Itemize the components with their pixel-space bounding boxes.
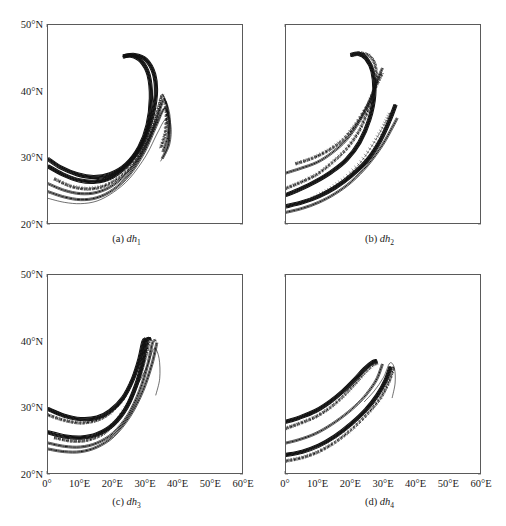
caption-var-d: dh — [380, 496, 391, 507]
tick-layer-d: 0°10°E20°E30°E40°E50°E60°E — [285, 274, 481, 474]
x-axis-tick-label: 20°E — [340, 478, 361, 489]
caption-var-b: dh — [380, 233, 391, 244]
tick-layer-b — [285, 24, 481, 224]
x-axis-tick-label: 10°E — [307, 478, 328, 489]
panel-b: (b) dh2 — [253, 0, 506, 263]
panel-a: 50°N40°N30°N20°N (a) dh1 — [0, 0, 253, 263]
figure-container: 50°N40°N30°N20°N (a) dh1 (b) dh2 50°N40°… — [0, 0, 506, 526]
x-axis-tick-label: 0° — [280, 478, 289, 489]
tick-layer-a: 50°N40°N30°N20°N — [47, 24, 243, 224]
caption-sub-a: 1 — [137, 238, 141, 247]
x-axis-tick-label: 10°E — [69, 478, 90, 489]
panel-c: 50°N40°N30°N20°N0°10°E20°E30°E40°E50°E60… — [0, 263, 253, 526]
caption-var-c: dh — [127, 496, 138, 507]
panel-caption-c: (c) dh3 — [0, 496, 253, 510]
panel-caption-d: (d) dh4 — [253, 496, 506, 510]
y-axis-tick-label: 30°N — [21, 402, 43, 413]
y-axis-tick-label: 20°N — [21, 469, 43, 480]
y-axis-tick-label: 30°N — [21, 152, 43, 163]
x-axis-tick-label: 50°E — [200, 478, 221, 489]
y-axis-tick-label: 40°N — [21, 85, 43, 96]
caption-var-a: dh — [127, 233, 138, 244]
panel-caption-b: (b) dh2 — [253, 233, 506, 247]
axis-ticks — [46, 273, 244, 475]
x-axis-tick-label: 20°E — [102, 478, 123, 489]
y-axis-tick-label: 20°N — [21, 219, 43, 230]
x-axis-tick-label: 40°E — [167, 478, 188, 489]
y-axis-tick-label: 50°N — [21, 269, 43, 280]
caption-label-b: (b) — [365, 233, 377, 244]
caption-label-a: (a) — [112, 233, 124, 244]
x-axis-tick-label: 50°E — [438, 478, 459, 489]
axis-ticks — [46, 23, 244, 225]
tick-layer-c: 50°N40°N30°N20°N0°10°E20°E30°E40°E50°E60… — [47, 274, 243, 474]
x-axis-tick-label: 0° — [42, 478, 51, 489]
x-axis-tick-label: 40°E — [405, 478, 426, 489]
panel-d: 0°10°E20°E30°E40°E50°E60°E (d) dh4 — [253, 263, 506, 526]
axis-ticks — [284, 23, 482, 225]
x-axis-tick-label: 30°E — [134, 478, 155, 489]
axis-ticks — [284, 273, 482, 475]
caption-sub-d: 4 — [390, 501, 394, 510]
caption-sub-c: 3 — [137, 501, 141, 510]
caption-label-d: (d) — [365, 496, 377, 507]
y-axis-tick-label: 40°N — [21, 335, 43, 346]
x-axis-tick-label: 60°E — [470, 478, 491, 489]
y-axis-tick-label: 50°N — [21, 19, 43, 30]
panel-caption-a: (a) dh1 — [0, 233, 253, 247]
x-axis-tick-label: 60°E — [232, 478, 253, 489]
x-axis-tick-label: 30°E — [372, 478, 393, 489]
caption-sub-b: 2 — [390, 238, 394, 247]
caption-label-c: (c) — [112, 496, 124, 507]
